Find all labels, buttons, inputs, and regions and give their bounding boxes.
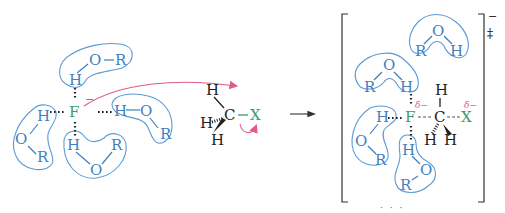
- atom-o: O: [140, 102, 152, 120]
- atom-o: O: [432, 22, 444, 40]
- solvent-shell-free: R O H: [409, 15, 468, 61]
- atom-fluoride: F: [405, 108, 415, 126]
- sn2-diagram: H O R H O R H O R H O R: [0, 0, 505, 213]
- atom-o: O: [383, 56, 395, 74]
- left-bracket: [342, 14, 348, 202]
- atom-r: R: [160, 125, 172, 143]
- atom-h: H: [376, 108, 389, 126]
- atom-o: O: [90, 161, 102, 179]
- atom-o: O: [15, 130, 27, 148]
- atom-h: H: [206, 81, 219, 99]
- atom-h: H: [69, 71, 82, 89]
- partial-charge-f: δ−: [415, 100, 428, 110]
- atom-carbon: C: [224, 106, 235, 124]
- atom-h: H: [444, 131, 457, 149]
- solvated-fluoride: H O R H O R H O R H O R: [13, 43, 236, 179]
- atom-h: H: [200, 114, 213, 132]
- solvent-shell-top: R O H: [355, 53, 418, 96]
- solvent-shell-left: H O R: [352, 106, 396, 169]
- cropped-caption: · · ·: [380, 203, 404, 213]
- solvent-shell-top: H O R: [60, 43, 133, 89]
- atom-h: H: [435, 81, 448, 99]
- atom-h: H: [37, 107, 50, 125]
- ts-charge: −: [488, 10, 497, 23]
- atom-leaving-group: X: [461, 108, 472, 126]
- double-dagger: ‡: [487, 27, 493, 41]
- atom-h: H: [402, 141, 415, 159]
- atom-leaving-group: X: [250, 106, 261, 124]
- partial-charge-x: δ−: [464, 100, 477, 110]
- atom-o: O: [355, 132, 367, 150]
- atom-r: R: [400, 176, 412, 194]
- atom-h: H: [67, 136, 80, 154]
- atom-r: R: [364, 78, 376, 96]
- atom-h: H: [211, 131, 224, 149]
- solvent-shell-bottom: H O R: [64, 131, 126, 179]
- atom-r: R: [415, 42, 427, 60]
- atom-o: O: [89, 51, 101, 69]
- atom-h: H: [450, 42, 463, 60]
- atom-h: H: [400, 78, 413, 96]
- curved-arrow-icon: [240, 124, 256, 133]
- atom-carbon: C: [434, 108, 445, 126]
- solvent-shell-left: H O R: [13, 105, 56, 170]
- atom-fluoride: F: [69, 103, 79, 121]
- atom-o: O: [420, 161, 432, 179]
- atom-h: H: [424, 131, 437, 149]
- atom-r: R: [115, 51, 127, 69]
- right-bracket: [478, 14, 484, 202]
- transition-state: − ‡ R O H R O H H O R: [342, 10, 497, 202]
- atom-r: R: [37, 148, 49, 166]
- atom-h: H: [114, 102, 127, 120]
- atom-r: R: [375, 151, 387, 169]
- atom-r: R: [111, 136, 123, 154]
- methyl-halide: H C X H H: [200, 81, 261, 149]
